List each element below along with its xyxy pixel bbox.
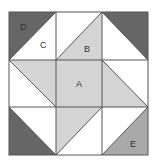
label-a: A xyxy=(76,79,82,89)
quilt-diagram: D C B A E xyxy=(0,0,157,166)
label-b: B xyxy=(84,44,90,54)
label-d: D xyxy=(20,22,27,32)
label-e: E xyxy=(130,139,136,149)
label-c: C xyxy=(40,40,47,50)
